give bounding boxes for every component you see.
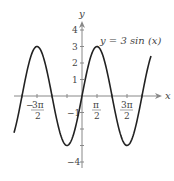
y-tick-2: 2 <box>72 58 78 68</box>
y-tick-4: 4 <box>72 25 78 35</box>
sine-chart: x − 3π 2 π 2 3π 2 y <box>0 0 174 181</box>
tick-neg-3pi2-den: 2 <box>35 111 41 121</box>
y-axis-label: y <box>78 8 85 19</box>
y-tick-3: 3 <box>72 42 78 52</box>
x-axis-label: x <box>165 90 171 101</box>
tick-pi2-num: π <box>93 100 99 110</box>
y-tick-1: 1 <box>72 75 78 85</box>
tick-3pi2-num: 3π <box>121 100 133 110</box>
equation-label: y = 3 sin (x) <box>99 35 161 46</box>
tick-3pi2-den: 2 <box>124 111 130 121</box>
y-tick-neg4: −4 <box>67 157 81 167</box>
tick-neg-3pi2-num: 3π <box>32 100 44 110</box>
tick-pi2-den: 2 <box>94 111 100 121</box>
